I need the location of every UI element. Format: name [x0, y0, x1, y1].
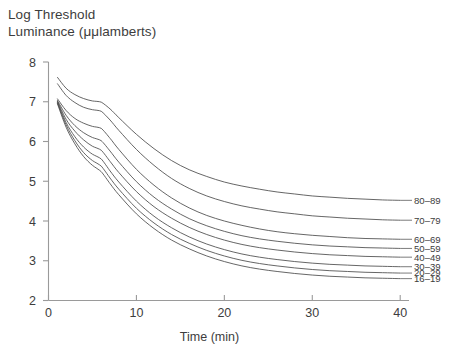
legend-labels: 80–8970–7960–6950–5940–4930–3920–2916–19	[400, 195, 440, 284]
x-tick-label: 30	[305, 306, 319, 320]
series-curves	[57, 77, 400, 279]
curve-30-39	[57, 102, 400, 267]
curve-70-79	[57, 83, 400, 220]
x-axis-title-text: Time (min)	[180, 330, 239, 344]
y-tick-label: 3	[29, 254, 36, 268]
y-tick-label: 7	[29, 95, 36, 109]
y-tick-label: 4	[29, 215, 36, 229]
legend-label-16-19: 16–19	[414, 273, 441, 284]
x-tick-label: 10	[129, 306, 143, 320]
y-axis-title: Log Threshold Luminance (μμlamberts)	[8, 6, 156, 40]
y-tick-label: 6	[29, 135, 36, 149]
y-tick-label: 5	[29, 175, 36, 189]
curve-16-19	[57, 103, 400, 278]
legend-label-80-89: 80–89	[414, 195, 441, 206]
x-tick-label: 40	[393, 306, 407, 320]
x-axis-title: Time (min)	[0, 330, 451, 344]
dark-adaptation-chart: Log Threshold Luminance (μμlamberts) 234…	[0, 0, 451, 361]
legend-label-70-79: 70–79	[414, 215, 441, 226]
x-axis: 010203040	[45, 295, 409, 320]
curve-50-59	[57, 100, 400, 248]
x-tick-label: 20	[217, 306, 231, 320]
y-tick-label: 8	[29, 56, 36, 70]
y-axis: 2345678	[29, 56, 48, 309]
y-tick-label: 2	[29, 294, 36, 308]
curve-40-49	[57, 101, 400, 257]
y-axis-ticks: 2345678	[29, 56, 48, 309]
x-axis-ticks: 010203040	[45, 295, 407, 320]
plot-area: 2345678 010203040 80–8970–7960–6950–5940…	[0, 0, 451, 361]
y-axis-title-line1: Log Threshold	[8, 7, 95, 22]
curve-20-29	[57, 103, 400, 274]
y-axis-title-line2: Luminance (μμlamberts)	[8, 24, 156, 39]
x-tick-label: 0	[45, 306, 52, 320]
